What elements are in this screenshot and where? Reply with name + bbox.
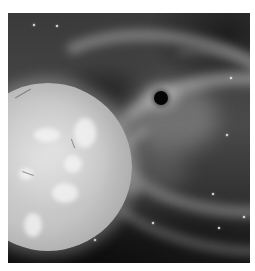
background-star [33,24,35,26]
background-star [152,222,154,224]
surface-bright-patch [74,118,96,148]
background-star [56,25,58,27]
space-illustration [8,13,250,263]
surface-bright-patch [64,155,82,173]
background-star [226,134,228,136]
black-hole [154,91,168,105]
surface-crack [15,89,31,99]
surface-bright-patch [34,128,60,142]
background-star [212,193,214,195]
background-star [94,239,96,241]
background-star [230,77,232,79]
background-star [243,216,245,218]
surface-bright-patch [24,213,42,237]
surface-bright-patch [52,183,78,203]
background-star [218,227,220,229]
